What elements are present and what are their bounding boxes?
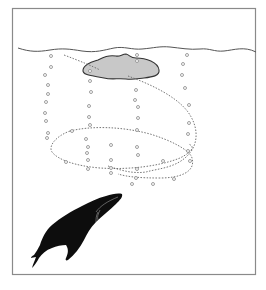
bubble-net-feeding-diagram (0, 0, 266, 290)
